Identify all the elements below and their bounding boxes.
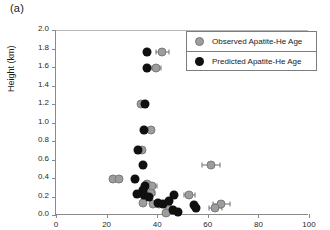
error-bar-cap [219, 163, 220, 168]
data-point [152, 63, 161, 72]
data-point [158, 199, 167, 208]
y-tick-label: 0.8 [38, 135, 49, 144]
error-bar-cap [168, 50, 169, 55]
data-point [131, 174, 140, 183]
legend: Observed Apatite-He Age Predicted Apatit… [186, 31, 317, 71]
observed-marker-icon [195, 37, 204, 46]
x-tick-label: 60 [203, 220, 212, 229]
data-point [115, 174, 124, 183]
y-tick: 0.6 [52, 160, 56, 161]
data-point [191, 203, 200, 212]
legend-item-predicted: Predicted Apatite-He Age [187, 51, 316, 70]
y-tick-label: 1.8 [38, 43, 49, 52]
x-tick-label: 80 [254, 220, 263, 229]
y-tick-label: 0.2 [38, 191, 49, 200]
error-bar-cap [155, 50, 156, 55]
y-axis-label: Height (km) [6, 45, 16, 92]
y-tick: 1.6 [52, 67, 56, 68]
y-tick-label: 1.6 [38, 61, 49, 70]
y-tick: 1.0 [52, 123, 56, 124]
error-bar-cap [229, 201, 230, 206]
x-tick-label: 40 [153, 220, 162, 229]
y-tick-label: 0.6 [38, 154, 49, 163]
data-point [141, 100, 150, 109]
y-tick: 1.8 [52, 49, 56, 50]
legend-label-observed: Observed Apatite-He Age [212, 37, 302, 46]
predicted-marker-icon [195, 57, 204, 66]
y-tick-label: 2.0 [38, 24, 49, 33]
x-tick: 60 [208, 214, 209, 218]
figure-panel: (a) Height (km) 0.00.20.40.60.81.01.21.4… [0, 0, 330, 230]
error-bar-cap [208, 205, 209, 210]
data-point [142, 48, 151, 57]
legend-item-observed: Observed Apatite-He Age [187, 32, 316, 51]
y-tick: 0.2 [52, 197, 56, 198]
x-tick-label: 20 [102, 220, 111, 229]
data-point [139, 161, 148, 170]
y-tick: 0.8 [52, 141, 56, 142]
error-bar-cap [201, 163, 202, 168]
y-tick: 2.0 [52, 30, 56, 31]
data-point [139, 125, 148, 134]
data-point [206, 161, 215, 170]
data-point [144, 193, 153, 202]
data-point [211, 203, 220, 212]
x-tick-label: 0 [54, 220, 58, 229]
x-tick: 0 [56, 214, 57, 218]
y-tick: 1.4 [52, 86, 56, 87]
data-point [158, 48, 167, 57]
x-tick: 80 [258, 214, 259, 218]
data-point [143, 63, 152, 72]
x-tick: 100 [309, 214, 310, 218]
y-tick-label: 1.2 [38, 98, 49, 107]
data-point [185, 190, 194, 199]
y-tick-label: 0.4 [38, 172, 49, 181]
y-tick-label: 1.0 [38, 117, 49, 126]
error-bar-cap [194, 192, 195, 197]
data-point [134, 146, 143, 155]
y-tick: 1.2 [52, 104, 56, 105]
y-tick-label: 0.0 [38, 209, 49, 218]
y-tick: 0.4 [52, 178, 56, 179]
x-tick: 40 [157, 214, 158, 218]
legend-label-predicted: Predicted Apatite-He Age [212, 57, 301, 66]
x-tick: 20 [107, 214, 108, 218]
data-point [173, 208, 182, 217]
x-tick-label: 100 [302, 220, 315, 229]
panel-label: (a) [10, 2, 24, 14]
y-tick-label: 1.4 [38, 80, 49, 89]
